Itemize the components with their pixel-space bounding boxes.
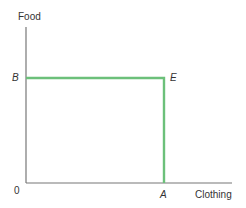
x-axis-label: Clothing	[195, 190, 232, 200]
y-axis-label: Food	[18, 12, 41, 22]
green-l-curve	[26, 78, 164, 183]
point-e-label: E	[170, 73, 177, 83]
point-b-label: B	[12, 73, 19, 83]
point-a-label: A	[160, 190, 167, 200]
origin-label: 0	[14, 186, 20, 196]
diagram-canvas	[0, 0, 246, 208]
